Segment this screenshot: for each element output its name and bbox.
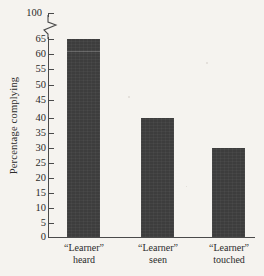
y-tick-15 bbox=[48, 193, 54, 194]
y-tick-60 bbox=[48, 54, 54, 55]
paper-speck bbox=[186, 186, 187, 187]
y-axis-title: Percentage complying bbox=[8, 51, 19, 201]
y-tick-40 bbox=[48, 118, 54, 119]
y-tick-label-5: 5 bbox=[20, 218, 46, 229]
y-tick-0 bbox=[48, 237, 54, 238]
x-category-line-2: heard bbox=[46, 254, 122, 266]
y-tick-30 bbox=[48, 148, 54, 149]
y-axis-line bbox=[48, 14, 49, 238]
y-tick-label-10: 10 bbox=[20, 203, 46, 214]
y-tick-label-15: 15 bbox=[20, 188, 46, 199]
y-tick-50 bbox=[48, 85, 54, 86]
y-tick-label-25: 25 bbox=[20, 158, 46, 169]
x-category-label-2: “Learner” touched bbox=[191, 242, 264, 265]
y-tick-25 bbox=[48, 163, 54, 164]
y-tick-label-45: 45 bbox=[20, 95, 46, 106]
paper-speck bbox=[128, 96, 130, 98]
y-tick-label-65: 65 bbox=[20, 34, 46, 45]
x-category-line-2: seen bbox=[120, 254, 196, 266]
x-category-line-1: “Learner” bbox=[46, 242, 122, 254]
y-tick-20 bbox=[48, 178, 54, 179]
bar-learner-seen bbox=[141, 118, 174, 237]
x-category-line-2: touched bbox=[191, 254, 264, 266]
y-tick-35 bbox=[48, 133, 54, 134]
y-tick-45 bbox=[48, 100, 54, 101]
bar-learner-heard bbox=[67, 39, 100, 237]
y-tick-label-30: 30 bbox=[20, 143, 46, 154]
bar-learner-touched bbox=[212, 148, 245, 237]
scan-artifact-line bbox=[67, 51, 100, 52]
y-tick-label-55: 55 bbox=[20, 64, 46, 75]
bar-chart: Percentage complying 100 65 60 55 50 45 … bbox=[0, 0, 264, 276]
x-category-label-0: “Learner” heard bbox=[46, 242, 122, 265]
y-tick-label-40: 40 bbox=[20, 113, 46, 124]
y-tick-10 bbox=[48, 208, 54, 209]
x-category-line-1: “Learner” bbox=[191, 242, 264, 254]
y-tick-label-0: 0 bbox=[20, 232, 46, 243]
x-category-line-1: “Learner” bbox=[120, 242, 196, 254]
y-tick-label-100: 100 bbox=[16, 8, 42, 19]
y-tick-100 bbox=[48, 13, 54, 14]
paper-speck bbox=[206, 62, 208, 64]
y-tick-label-20: 20 bbox=[20, 173, 46, 184]
y-tick-label-60: 60 bbox=[20, 49, 46, 60]
x-axis-line bbox=[48, 237, 255, 238]
y-tick-label-50: 50 bbox=[20, 80, 46, 91]
y-tick-65 bbox=[48, 39, 54, 40]
x-category-label-1: “Learner” seen bbox=[120, 242, 196, 265]
y-tick-55 bbox=[48, 69, 54, 70]
y-tick-label-35: 35 bbox=[20, 128, 46, 139]
y-tick-5 bbox=[48, 223, 54, 224]
